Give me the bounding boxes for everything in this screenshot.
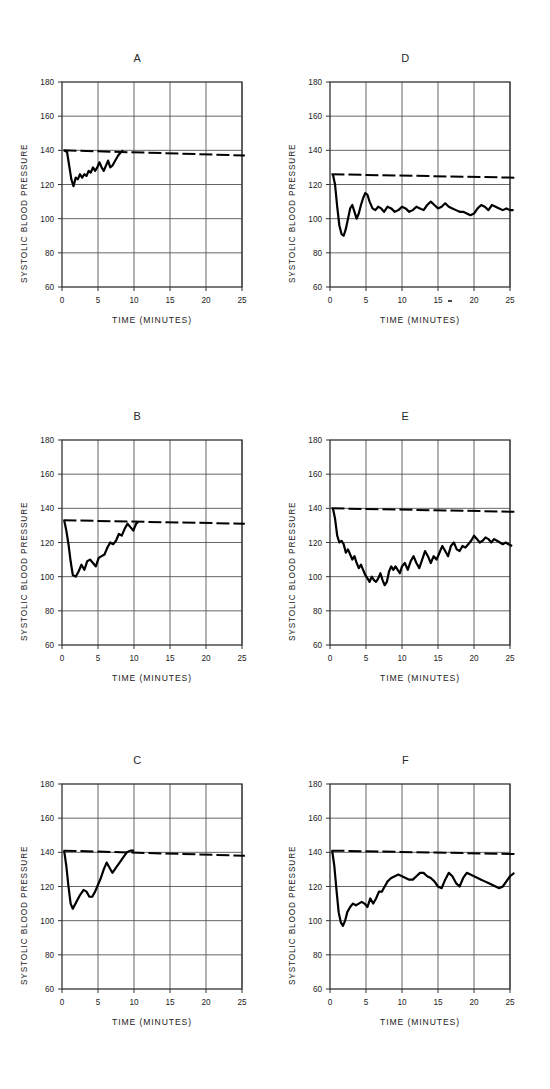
- x-tick-label: 0: [328, 998, 333, 1007]
- y-tick-label: 140: [308, 146, 322, 155]
- x-tick-label: 10: [129, 296, 139, 305]
- x-tick-label: 20: [201, 654, 211, 663]
- y-tick-label: 100: [308, 215, 322, 224]
- panel-e: ESYSTOLIC BLOOD PRESSURETIME (MINUTES)60…: [268, 398, 543, 738]
- y-tick-label: 160: [308, 814, 322, 823]
- x-tick-label: 10: [397, 654, 407, 663]
- bp-trace: [64, 150, 123, 186]
- x-tick-label: 25: [505, 654, 515, 663]
- x-tick-label: 10: [397, 998, 407, 1007]
- y-tick-label: 140: [308, 504, 322, 513]
- y-tick-label: 120: [40, 181, 54, 190]
- y-tick-label: 100: [308, 917, 322, 926]
- plot-area-f: 60801001201401601800510152025: [268, 742, 543, 1062]
- y-tick-label: 120: [40, 883, 54, 892]
- y-tick-label: 180: [40, 780, 54, 789]
- y-tick-label: 80: [45, 607, 55, 616]
- scan-artifact-dot: [448, 300, 452, 302]
- y-tick-label: 60: [313, 985, 323, 994]
- x-tick-label: 20: [201, 998, 211, 1007]
- baseline-trace: [331, 174, 514, 177]
- figure-root: ASYSTOLIC BLOOD PRESSURETIME (MINUTES)60…: [0, 0, 550, 1089]
- y-tick-label: 60: [313, 283, 323, 292]
- y-tick-label: 140: [308, 848, 322, 857]
- y-tick-label: 120: [40, 539, 54, 548]
- x-tick-label: 5: [364, 654, 369, 663]
- grid-lines: [330, 440, 510, 645]
- x-tick-label: 15: [433, 296, 443, 305]
- y-tick-label: 60: [313, 641, 323, 650]
- y-tick-label: 160: [40, 470, 54, 479]
- x-tick-label: 25: [237, 654, 247, 663]
- grid-lines: [62, 784, 242, 989]
- x-tick-label: 0: [60, 296, 65, 305]
- x-tick-label: 15: [165, 654, 175, 663]
- y-tick-label: 100: [40, 917, 54, 926]
- x-tick-label: 20: [469, 998, 479, 1007]
- plot-area-e: 60801001201401601800510152025: [268, 398, 543, 718]
- panel-a: ASYSTOLIC BLOOD PRESSURETIME (MINUTES)60…: [0, 40, 275, 380]
- baseline-trace: [63, 520, 244, 523]
- x-tick-label: 5: [96, 654, 101, 663]
- grid-lines: [330, 784, 510, 989]
- panel-c: CSYSTOLIC BLOOD PRESSURETIME (MINUTES)60…: [0, 742, 275, 1082]
- x-tick-label: 5: [96, 296, 101, 305]
- x-tick-label: 0: [328, 296, 333, 305]
- x-tick-label: 10: [129, 998, 139, 1007]
- y-tick-label: 180: [40, 78, 54, 87]
- bp-trace: [332, 851, 514, 926]
- y-tick-label: 120: [308, 539, 322, 548]
- bp-trace: [333, 508, 512, 585]
- baseline-trace: [63, 150, 244, 155]
- x-tick-label: 0: [60, 654, 65, 663]
- y-tick-label: 180: [308, 780, 322, 789]
- baseline-trace: [331, 508, 514, 511]
- y-tick-label: 100: [40, 573, 54, 582]
- x-tick-label: 20: [469, 654, 479, 663]
- y-tick-label: 180: [308, 78, 322, 87]
- y-tick-label: 80: [313, 951, 323, 960]
- y-tick-label: 120: [308, 883, 322, 892]
- x-tick-label: 25: [237, 296, 247, 305]
- x-tick-label: 25: [505, 296, 515, 305]
- y-tick-label: 140: [40, 146, 54, 155]
- x-tick-label: 10: [129, 654, 139, 663]
- y-tick-label: 80: [45, 249, 55, 258]
- grid-lines: [330, 82, 510, 287]
- y-tick-label: 180: [308, 436, 322, 445]
- y-tick-label: 140: [40, 504, 54, 513]
- bp-trace: [333, 174, 514, 236]
- x-tick-label: 25: [237, 998, 247, 1007]
- y-tick-label: 100: [308, 573, 322, 582]
- plot-area-d: 60801001201401601800510152025: [268, 40, 543, 360]
- panel-f: FSYSTOLIC BLOOD PRESSURETIME (MINUTES)60…: [268, 742, 543, 1082]
- y-tick-label: 60: [45, 283, 55, 292]
- plot-area-b: 60801001201401601800510152025: [0, 398, 275, 718]
- y-tick-label: 100: [40, 215, 54, 224]
- y-tick-label: 180: [40, 436, 54, 445]
- grid-lines: [62, 440, 242, 645]
- x-tick-label: 20: [201, 296, 211, 305]
- bp-trace: [64, 520, 138, 576]
- x-tick-label: 10: [397, 296, 407, 305]
- x-tick-label: 5: [364, 998, 369, 1007]
- grid-lines: [62, 82, 242, 287]
- x-tick-label: 15: [433, 998, 443, 1007]
- x-tick-label: 0: [60, 998, 65, 1007]
- y-tick-label: 160: [40, 814, 54, 823]
- bp-trace: [64, 851, 134, 909]
- panel-d: DSYSTOLIC BLOOD PRESSURETIME (MINUTES)60…: [268, 40, 543, 380]
- x-tick-label: 15: [165, 296, 175, 305]
- panel-b: BSYSTOLIC BLOOD PRESSURETIME (MINUTES)60…: [0, 398, 275, 738]
- plot-area-c: 60801001201401601800510152025: [0, 742, 275, 1062]
- x-tick-label: 5: [364, 296, 369, 305]
- y-tick-label: 60: [45, 985, 55, 994]
- y-tick-label: 140: [40, 848, 54, 857]
- y-tick-label: 160: [40, 112, 54, 121]
- y-tick-label: 80: [45, 951, 55, 960]
- y-tick-label: 160: [308, 470, 322, 479]
- x-tick-label: 15: [433, 654, 443, 663]
- x-tick-label: 20: [469, 296, 479, 305]
- x-tick-label: 5: [96, 998, 101, 1007]
- baseline-trace: [63, 851, 244, 856]
